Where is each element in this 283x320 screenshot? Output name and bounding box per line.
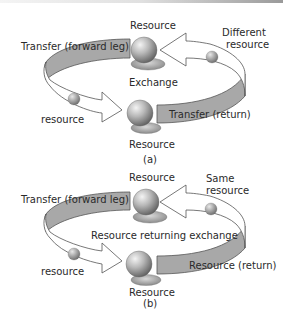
caption-b: (b) xyxy=(143,298,157,309)
sphere-bottom-a xyxy=(127,100,153,126)
label-return-leg-b: Resource (return) xyxy=(189,260,276,271)
label-left-resource-b: resource xyxy=(41,266,84,277)
label-bottom-resource-b: Resource xyxy=(129,287,175,298)
label-different-a-line2: resource xyxy=(226,39,269,50)
sphere-bottom-b xyxy=(126,251,152,277)
label-top-resource-b: Resource xyxy=(129,172,175,183)
resource-ball-right-b xyxy=(205,203,217,215)
label-same-b-line2: resource xyxy=(206,185,249,196)
resource-ball-left-b xyxy=(68,248,80,260)
caption-a: (a) xyxy=(143,154,157,165)
label-left-resource-a: resource xyxy=(41,114,84,125)
resource-ball-right-a xyxy=(206,51,218,63)
label-return-leg-a: Transfer (return) xyxy=(169,109,251,120)
label-forward-leg-a: Transfer (forward leg) xyxy=(21,41,129,52)
label-center-b: Resource returning exchange xyxy=(91,230,238,241)
label-exchange-a: Exchange xyxy=(129,77,178,88)
label-different-a-line1: Different xyxy=(222,27,266,38)
label-top-resource-a: Resource xyxy=(130,20,176,31)
label-same-b-line1: Same xyxy=(206,173,234,184)
sphere-top-b xyxy=(133,189,159,215)
label-bottom-resource-a: Resource xyxy=(129,139,175,150)
sphere-top-a xyxy=(131,37,157,63)
label-forward-leg-b: Transfer (forward leg) xyxy=(21,194,129,205)
resource-ball-left-a xyxy=(68,93,80,105)
